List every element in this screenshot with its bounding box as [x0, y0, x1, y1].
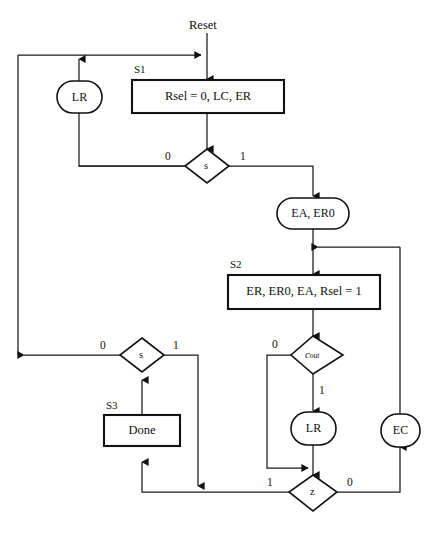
reset-label: Reset — [189, 19, 217, 32]
edge-lr-top-input — [79, 112, 201, 166]
cout-subscript: out — [310, 351, 320, 360]
asm-chart-canvas: Reset S1 Rsel = 0, LC, ER LR s 0 1 EA, E… — [0, 0, 440, 541]
lr-mid-label: LR — [291, 422, 336, 434]
s1-box-label: Rsel = 0, LC, ER — [154, 90, 262, 103]
s-diamond-left-label: s — [139, 350, 143, 361]
branch-label-cout-zero: 0 — [272, 339, 278, 351]
flowchart-graphics — [0, 0, 440, 541]
branch-label-left-s-zero: 0 — [100, 340, 106, 352]
edge-s-top-one — [229, 166, 313, 196]
branch-label-z-zero: 0 — [347, 477, 353, 489]
branch-label-top-s-one: 1 — [240, 151, 246, 163]
z-diamond-label: z — [310, 487, 315, 498]
cout-diamond-label: cout — [305, 350, 319, 361]
s-diamond-top-label: s — [204, 161, 208, 172]
branch-label-left-s-one: 1 — [173, 340, 179, 352]
s3-state-label: S3 — [106, 400, 118, 411]
s2-box-label: ER, ER0, EA, Rsel = 1 — [240, 285, 368, 298]
s3-box-label: Done — [104, 424, 180, 437]
lr-top-label: LR — [57, 91, 102, 103]
ea-er0-label: EA, ER0 — [277, 207, 349, 219]
branch-label-z-one: 1 — [267, 477, 273, 489]
s2-state-label: S2 — [230, 259, 242, 270]
branch-label-cout-one: 1 — [319, 385, 325, 397]
branch-label-top-s-zero: 0 — [165, 151, 171, 163]
s1-state-label: S1 — [134, 64, 146, 75]
edge-cout-zero — [267, 355, 308, 468]
ec-label: EC — [381, 424, 420, 436]
